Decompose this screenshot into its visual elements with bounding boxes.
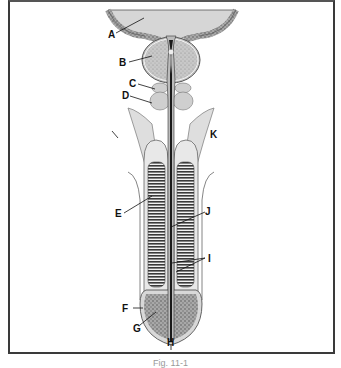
label-a: A <box>108 29 115 40</box>
label-g: G <box>133 323 141 334</box>
label-e: E <box>115 208 122 219</box>
label-i: I <box>208 253 211 264</box>
figure-caption: Fig. 11-1 <box>0 358 341 368</box>
label-f: F <box>122 303 128 314</box>
label-b: B <box>119 57 126 68</box>
label-k: K <box>210 129 218 140</box>
label-j: J <box>205 206 211 217</box>
label-c: C <box>129 78 136 89</box>
label-h: H <box>167 337 174 348</box>
label-d: D <box>122 90 129 101</box>
